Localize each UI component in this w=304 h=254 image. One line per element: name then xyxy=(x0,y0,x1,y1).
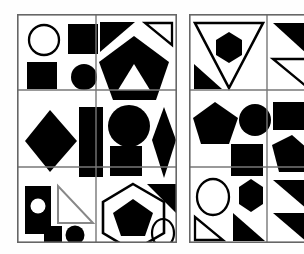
filled-square-icon xyxy=(27,62,57,89)
filled-circle-icon xyxy=(71,64,97,90)
inner-white-circle-icon xyxy=(31,199,46,214)
filled-rectangle-icon xyxy=(273,102,304,130)
filled-circle-icon xyxy=(239,104,271,136)
filled-square-icon xyxy=(44,226,62,243)
filled-square-icon xyxy=(231,144,263,176)
left-panel-canvas xyxy=(17,14,177,243)
right-panel-canvas xyxy=(189,14,304,243)
left-panel xyxy=(17,14,177,243)
shape-grid-image: Two bordered panels each containing a 3-… xyxy=(0,0,304,254)
filled-square-icon xyxy=(68,24,98,54)
filled-square-icon xyxy=(110,146,142,176)
filled-circle-icon xyxy=(108,105,150,147)
right-panel xyxy=(189,14,304,243)
